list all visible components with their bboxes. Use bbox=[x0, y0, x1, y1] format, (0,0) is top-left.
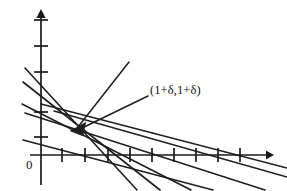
linear-program-figure: 0 (1+δ,1+δ) bbox=[0, 0, 287, 191]
shallow-constraint-lines bbox=[41, 104, 287, 177]
constraint-lines bbox=[22, 68, 265, 190]
y-axis-arrow-icon bbox=[36, 9, 45, 18]
x-axis-arrow-icon bbox=[266, 150, 274, 159]
vertex-pointers bbox=[70, 62, 148, 136]
vertex-coordinate-label: (1+δ,1+δ) bbox=[150, 84, 201, 97]
origin-label: 0 bbox=[26, 158, 33, 171]
figure-canvas bbox=[0, 0, 287, 191]
constraint-line-6 bbox=[54, 111, 287, 177]
